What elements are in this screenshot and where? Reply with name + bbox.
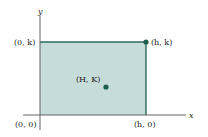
label-H-K: (H, K) [76, 75, 100, 84]
label-top-left: (0, k) [14, 38, 35, 47]
x-axis-label: x [189, 111, 194, 120]
point-H-K [103, 84, 108, 89]
label-origin: (0, 0) [15, 120, 37, 129]
point-h-k [143, 39, 148, 44]
label-bottom-right: (h, 0) [134, 120, 156, 129]
coordinate-diagram: y x (0, k) (h, k) (0, 0) (h, 0) (H, K) [0, 0, 208, 137]
y-axis-label: y [37, 7, 43, 16]
label-top-right: (h, k) [151, 38, 172, 47]
